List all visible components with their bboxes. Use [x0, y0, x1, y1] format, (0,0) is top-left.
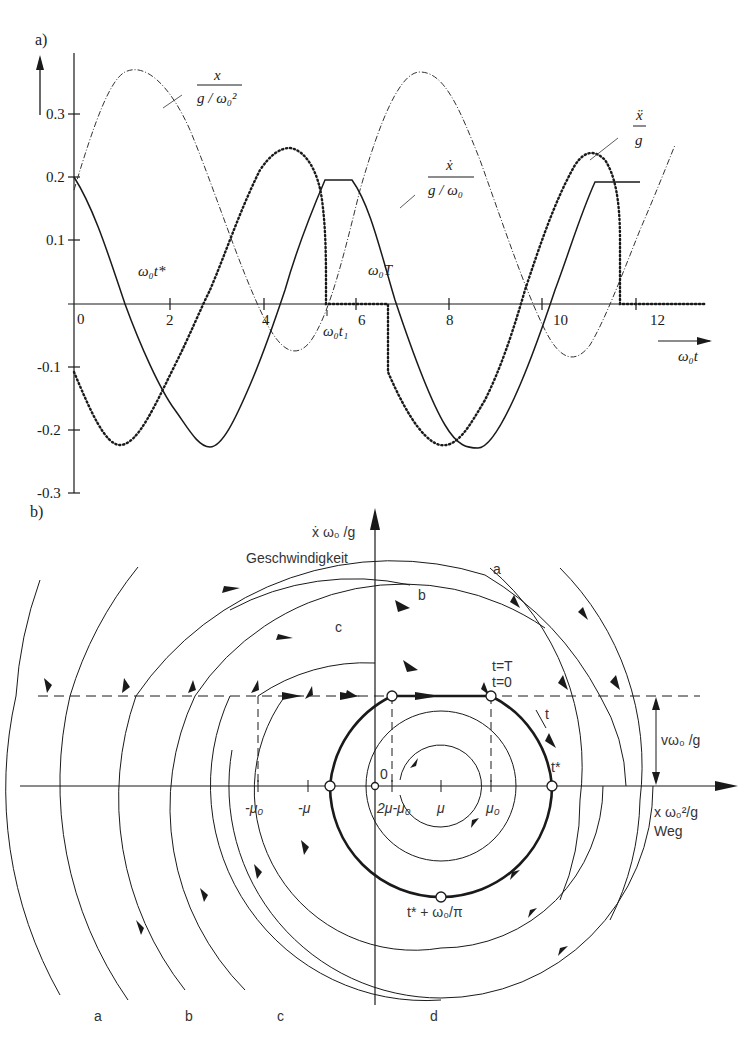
- curve-label-c-bottom: c: [277, 1008, 284, 1024]
- y-tick-neg0.3: -0.3: [37, 485, 61, 501]
- x-tick-6: 6: [358, 312, 366, 328]
- flow-arrow-icon: [545, 733, 556, 748]
- trajectory-inner-left: [210, 696, 441, 1001]
- flow-arrow-icon: [276, 634, 293, 640]
- arrow-head-icon: [715, 781, 738, 791]
- limit-cycle: [330, 696, 552, 897]
- flow-arrow-icon: [403, 660, 418, 672]
- panel-a-label: a): [35, 31, 47, 49]
- flow-arrow-icon: [558, 946, 568, 956]
- position-axis-name: Weg: [654, 823, 683, 839]
- flow-arrow-icon: [44, 678, 52, 693]
- label-origin: 0: [380, 766, 388, 782]
- arrow-head-icon: [370, 508, 380, 530]
- tick-neg-mu0: -μ₀: [245, 800, 263, 816]
- flow-arrow-icon: [254, 864, 262, 879]
- curve-label-a-bottom: a: [94, 1008, 102, 1024]
- legend-x-denominator: g / ω₀²: [197, 90, 237, 106]
- panel-a-chart: a) 0.3 0.2 0.1 -0.1 -0.2 -0.3: [35, 31, 712, 501]
- trajectory-c-upper: [230, 579, 410, 610]
- trajectory-c-right: [600, 696, 626, 786]
- x-tick-8: 8: [446, 312, 454, 328]
- flow-arrow-icon: [415, 692, 440, 700]
- x-tick-0: 0: [77, 311, 85, 327]
- legend-a-denominator: g: [635, 132, 643, 148]
- label-t0: t=0: [492, 674, 512, 690]
- flow-arrow-icon: [251, 680, 259, 693]
- trajectory-a-right-1b: [560, 800, 580, 900]
- flow-arrow-icon: [510, 595, 520, 608]
- x-tick-10: 10: [553, 312, 568, 328]
- y-tick-0.2: 0.2: [46, 169, 65, 185]
- curve-label-d-bottom: d: [430, 1008, 438, 1024]
- point-origin: [372, 783, 379, 790]
- arrow-up-icon: [652, 697, 660, 710]
- key-points: [325, 691, 557, 902]
- panel-b-label: b): [30, 503, 43, 521]
- flow-arrow-icon: [471, 818, 479, 828]
- position-axis-label: x ω₀²/g: [654, 804, 698, 820]
- y-tick-0.3: 0.3: [46, 106, 65, 122]
- annotation-wt1: ω₀t₁: [323, 323, 348, 339]
- legend-acceleration: ẍ g: [590, 107, 646, 160]
- y-tick-neg0.2: -0.2: [37, 422, 61, 438]
- trajectory-b-left: [60, 696, 128, 1000]
- tick-mu0: μ₀: [485, 800, 500, 816]
- flow-arrow-icon: [578, 607, 588, 620]
- trajectory-inner-right-2: [441, 786, 603, 948]
- arrow-head-icon: [36, 55, 44, 70]
- displacement-curve: [74, 70, 675, 357]
- legend-velocity: ẋ g / ω₀: [400, 157, 474, 208]
- x-tick-labels: 0 2 4 6 8 10 12: [77, 311, 665, 328]
- flow-arrow-icon: [528, 908, 537, 918]
- velocity-axis-label: ẋ ω₀ /g: [312, 524, 355, 540]
- point-half-period: [436, 892, 446, 902]
- velocity-axis-name: Geschwindigkeit: [246, 550, 348, 566]
- trajectory-a-top-left: [16, 580, 40, 696]
- flow-arrow-icon: [395, 600, 410, 612]
- label-t: t: [545, 706, 549, 722]
- flow-arrow-icon: [282, 692, 302, 700]
- flow-arrow-icon: [188, 680, 196, 693]
- tick-mu: μ: [436, 800, 445, 816]
- legend-v-denominator: g / ω₀: [428, 182, 463, 198]
- tick-neg-mu: -μ: [298, 800, 311, 816]
- flow-arrow-icon: [345, 690, 357, 697]
- curve-label-b-top: b: [418, 587, 426, 603]
- trajectory-a-right-2: [560, 568, 642, 800]
- curve-label-c-top: c: [335, 619, 342, 635]
- curve-label-a-top: a: [493, 561, 501, 577]
- belt-velocity-label: vω₀ /g: [661, 732, 700, 748]
- trajectory-c-top: [258, 663, 375, 696]
- trajectory-a-left: [6, 696, 60, 995]
- label-tT: t=T: [492, 658, 513, 674]
- trajectory-c-left: [119, 696, 185, 990]
- y-tick-neg0.1: -0.1: [37, 359, 61, 375]
- point-stick-start: [387, 691, 397, 701]
- arrow-down-icon: [652, 772, 660, 785]
- figure-canvas: a) 0.3 0.2 0.1 -0.1 -0.2 -0.3: [0, 0, 745, 1049]
- y-tick-labels: 0.3 0.2 0.1 -0.1 -0.2 -0.3: [37, 106, 65, 501]
- annotation-wt-star: ω₀t*: [138, 263, 166, 279]
- point-t0: [486, 691, 496, 701]
- legend-v-numerator: ẋ: [445, 157, 453, 173]
- label-tstar-half: t* + ω₀/π: [407, 904, 463, 920]
- x-tick-12: 12: [650, 312, 665, 328]
- phase-x-tick-labels: -μ₀ -μ 2μ-μ₀ μ μ₀: [245, 800, 500, 816]
- tick-2mu-mu0: 2μ-μ₀: [376, 800, 411, 816]
- panel-b-phase-diagram: b) ẋ ω₀ /g Geschwindigkeit x ω₀²/g Weg v…: [6, 503, 738, 1024]
- y-tick-0.1: 0.1: [46, 232, 65, 248]
- trajectory-a-upper-left: [70, 567, 138, 696]
- annotation-wT: ω₀T: [368, 262, 394, 278]
- flow-arrow-icon: [305, 686, 313, 699]
- flow-arrow-icon: [301, 840, 309, 855]
- legend-displacement: x g / ω₀²: [163, 67, 242, 108]
- curve-label-b-bottom: b: [185, 1008, 193, 1024]
- arrow-head-icon: [697, 337, 712, 345]
- flow-arrow-icon: [122, 678, 130, 693]
- x-axis-label: ω₀t: [678, 348, 699, 364]
- flow-arrow-icon: [222, 586, 240, 593]
- x-tick-4: 4: [262, 312, 270, 328]
- flow-arrow-icon: [610, 675, 620, 690]
- x-tick-2: 2: [166, 312, 174, 328]
